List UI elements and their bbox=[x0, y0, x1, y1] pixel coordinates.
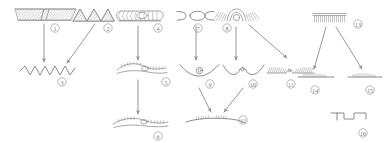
node-label-text: 10 bbox=[250, 81, 256, 88]
node-label-text: 11 bbox=[288, 81, 294, 88]
arrow-13-to-14 bbox=[314, 27, 326, 69]
node-6-curved-hatched-layers-merged bbox=[113, 117, 168, 128]
node-4-coiled-tube bbox=[117, 11, 164, 21]
node-1-label: 1 bbox=[51, 24, 59, 32]
node-7-label: 7 bbox=[194, 24, 202, 32]
node-12-hatched-long-line-with-gap bbox=[186, 116, 244, 123]
node-14-label: 14 bbox=[311, 86, 319, 94]
node-label-text: 16 bbox=[360, 130, 366, 137]
node-10-label: 10 bbox=[249, 80, 257, 88]
node-label-text: 15 bbox=[367, 87, 373, 94]
arrow-13-to-15 bbox=[336, 27, 362, 69]
node-label-text: 4 bbox=[156, 25, 159, 32]
node-5-curved-hatched-layers bbox=[117, 62, 167, 73]
node-10-wave-line-with-bump bbox=[223, 65, 264, 75]
node-14-fine-comb-line-left bbox=[298, 73, 334, 77]
node-label-text: 6 bbox=[156, 133, 159, 140]
node-3-label: 3 bbox=[58, 78, 66, 86]
node-6-label: 6 bbox=[154, 132, 162, 140]
diagram-canvas: 1 2 3 bbox=[0, 0, 386, 143]
node-8-label: 8 bbox=[223, 24, 231, 32]
node-16-stepped-line bbox=[331, 113, 366, 120]
arrow-2-to-3 bbox=[67, 24, 95, 63]
node-11-label: 11 bbox=[287, 80, 295, 88]
node-label-text: 1 bbox=[53, 25, 56, 32]
node-7-bracket-lens-bracket bbox=[177, 11, 214, 20]
node-label-text: 14 bbox=[312, 87, 318, 94]
node-15-fine-comb-line-right bbox=[348, 74, 382, 78]
node-13-label: 13 bbox=[354, 20, 362, 28]
arrow-10-to-12 bbox=[224, 88, 243, 112]
node-9-draped-line-with-bead bbox=[180, 65, 219, 77]
node-2-hatched-zigzag-band bbox=[73, 9, 114, 21]
sketch-diagram: 1 2 3 bbox=[0, 0, 386, 143]
node-9-label: 9 bbox=[206, 80, 214, 88]
node-2-label: 2 bbox=[104, 24, 112, 32]
node-label-text: 3 bbox=[60, 79, 63, 86]
node-3-zigzag-line bbox=[20, 66, 75, 75]
node-5-label: 5 bbox=[162, 78, 170, 86]
node-4-label: 4 bbox=[154, 24, 162, 32]
node-8-radiating-fan-arc bbox=[214, 9, 259, 21]
node-13-comb-band bbox=[313, 14, 346, 23]
node-label-text: 5 bbox=[164, 79, 167, 86]
node-label-text: 7 bbox=[196, 25, 199, 32]
node-label-text: 2 bbox=[106, 25, 109, 32]
node-15-label: 15 bbox=[366, 86, 374, 94]
arrow-8-to-11 bbox=[249, 25, 287, 58]
node-label-text: 8 bbox=[225, 25, 228, 32]
node-1-hatched-flat-band-pair bbox=[15, 9, 76, 20]
node-label-text: 9 bbox=[208, 81, 211, 88]
node-label-text: 13 bbox=[355, 21, 361, 28]
node-12-label: 12 bbox=[239, 116, 247, 124]
node-16-label: 16 bbox=[359, 129, 367, 137]
node-11-hatched-flat-band-with-gap bbox=[267, 68, 314, 73]
node-label-text: 12 bbox=[240, 117, 246, 124]
arrow-9-to-12 bbox=[199, 88, 211, 112]
